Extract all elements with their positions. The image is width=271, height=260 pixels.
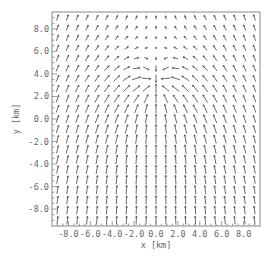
x-tick-label: 4.0 (192, 229, 207, 239)
x-tick-label: 8.0 (236, 229, 251, 239)
x-tick-label: -2.0 (124, 229, 144, 239)
y-axis-ticks: -8.0-6.0-4.0-2.00.02.04.06.08.0 (29, 18, 57, 221)
y-tick-label: -8.0 (29, 204, 49, 214)
vector-arrows (56, 15, 256, 225)
y-tick-label: 0.0 (34, 114, 49, 124)
vector-field-chart: -8.0-6.0-4.0-2.00.02.04.06.08.0 -8.0-6.0… (0, 0, 271, 260)
y-tick-label: 8.0 (34, 24, 49, 34)
y-tick-label: 2.0 (34, 91, 49, 101)
y-tick-label: 6.0 (34, 46, 49, 56)
x-tick-label: 6.0 (214, 229, 229, 239)
x-tick-label: 0.0 (148, 229, 163, 239)
y-tick-label: -6.0 (29, 182, 49, 192)
y-axis-label: y [km] (11, 104, 21, 135)
y-tick-label: -2.0 (29, 137, 49, 147)
x-tick-label: -4.0 (102, 229, 122, 239)
x-tick-label: -6.0 (80, 229, 100, 239)
y-tick-label: 4.0 (34, 69, 49, 79)
y-tick-label: -4.0 (29, 159, 49, 169)
x-tick-label: 2.0 (170, 229, 185, 239)
x-axis-label: x [km] (141, 240, 172, 250)
x-tick-label: -8.0 (58, 229, 78, 239)
